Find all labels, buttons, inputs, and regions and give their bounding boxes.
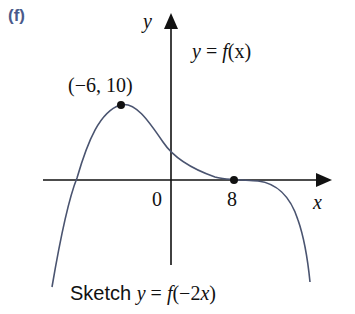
task-eq: = <box>146 282 167 304</box>
task-y: y <box>137 282 146 304</box>
x-intercept-label: 8 <box>227 188 237 211</box>
curve-f-of-x <box>52 104 310 287</box>
origin-label: 0 <box>152 188 162 211</box>
task-arg-close: ) <box>209 282 216 304</box>
y-axis-arrow-icon <box>164 13 178 29</box>
x-axis-arrow-icon <box>316 173 332 187</box>
graph <box>0 0 355 314</box>
max-point-marker <box>117 101 125 109</box>
task-instruction: Sketch y = f(−2x) <box>70 282 216 305</box>
max-point-label: (−6, 10) <box>68 74 133 97</box>
task-prefix: Sketch <box>70 282 137 304</box>
eq-equals: = <box>201 40 222 62</box>
eq-y: y <box>192 40 201 62</box>
task-x: x <box>200 282 209 304</box>
task-arg-open: (−2 <box>172 282 200 304</box>
inflection-point-marker <box>230 176 238 184</box>
eq-arg: (x) <box>228 40 251 62</box>
x-axis-label: x <box>313 191 322 214</box>
curve-equation: y = f(x) <box>192 40 251 63</box>
y-axis-label: y <box>143 10 152 33</box>
